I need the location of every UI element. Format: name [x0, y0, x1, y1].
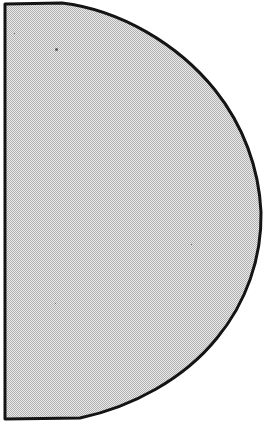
half-disc-figure: Half-disc shaded figure: [0, 0, 266, 425]
figure-canvas: Half-disc shaded figure Scanned line dra…: [0, 0, 266, 425]
